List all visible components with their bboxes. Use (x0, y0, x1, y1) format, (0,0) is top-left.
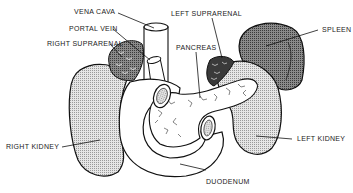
anatomy-diagram: VENA CAVA PORTAL VEIN RIGHT SUPRARENAL L… (0, 0, 353, 193)
label-left-kidney: LEFT KIDNEY (297, 135, 345, 143)
label-pancreas: PANCREAS (176, 44, 216, 52)
label-left-suprarenal: LEFT SUPRARENAL (171, 10, 242, 18)
label-spleen: SPLEEN (322, 26, 351, 34)
label-right-kidney: RIGHT KIDNEY (6, 143, 59, 151)
label-vena-cava: VENA CAVA (74, 8, 115, 16)
label-portal-vein: PORTAL VEIN (69, 25, 118, 33)
organ-illustration (0, 0, 353, 193)
label-duodenum: DUODENUM (206, 178, 250, 186)
label-right-suprarenal: RIGHT SUPRARENAL (47, 40, 123, 48)
